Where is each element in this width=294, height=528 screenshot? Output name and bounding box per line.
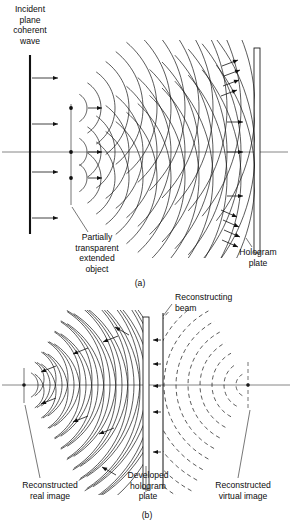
reconstructed-virtual-image-label-line: virtual image [219, 491, 268, 501]
developed-hologram-plate [143, 317, 149, 489]
incident-wave-label-line: Incident [15, 4, 46, 14]
wavefront-arc-src0-4 [116, 52, 143, 165]
reconstructed-real-image-label-line: real image [30, 491, 70, 501]
virtual-image-label-leader [238, 410, 250, 478]
object-label-leader [72, 207, 88, 232]
wavefront-arc-src2-9 [175, 81, 213, 275]
holography-figure: IncidentplanecoherentwavePartiallytransp… [0, 0, 294, 528]
wavefront-arc-src0-0 [79, 94, 87, 121]
object-point-source-2 [69, 176, 73, 180]
wavefront-arc-src2-5 [126, 112, 157, 243]
reconstructing-beam-label: Reconstructingbeam [175, 292, 233, 313]
object-point-source-0 [69, 106, 73, 110]
arrowhead [234, 80, 239, 84]
arrowhead [53, 216, 58, 220]
arrowhead [153, 384, 158, 388]
incident-wave-label-line: wave [19, 36, 40, 46]
arrowhead [153, 410, 158, 414]
real-image-label-leader [25, 405, 40, 478]
incident-wave-label: Incidentplanecoherentwave [13, 4, 47, 46]
arrowhead [53, 170, 58, 174]
figure-canvas: IncidentplanecoherentwavePartiallytransp… [0, 0, 294, 528]
reconstructing-beam-label-line: beam [175, 303, 197, 313]
hologram-plate-label-line: Hologram [239, 247, 276, 257]
wavefront-arc-src0-7 [150, 25, 185, 190]
object-label-line: object [86, 264, 110, 274]
arrowhead [53, 122, 58, 126]
arrowhead [153, 338, 158, 342]
object-label-line: transparent [75, 243, 119, 253]
wavefront-arc-src2-4 [116, 122, 143, 235]
reconstructed-virtual-image-label-line: Reconstructed [215, 480, 271, 490]
incident-wave-label-line: plane [19, 15, 40, 25]
reconstructed-virtual-image-label: Reconstructedvirtual image [215, 480, 271, 501]
reconstructing-beam-label-leader [163, 304, 172, 316]
object-point-source-1 [69, 150, 73, 154]
hologram-plate-label-leader [246, 238, 252, 247]
reconstructing-beam-label-line: Reconstructing [175, 292, 233, 302]
arrowhead [53, 76, 58, 80]
object-label-line: Partially [82, 232, 113, 242]
arrowhead [238, 150, 243, 154]
reconstructed-real-image-label: Reconstructedreal image [22, 480, 78, 501]
wavefront-arc-src0-8 [162, 18, 199, 198]
arrowhead [103, 338, 108, 342]
developed-hologram-plate-label-line: Developed [127, 470, 168, 480]
converging-wavefront-alt0-10 [100, 261, 164, 497]
panel-a-id: (a) [135, 278, 146, 288]
arrowhead [102, 467, 107, 471]
wavefront-arc-src2-3 [106, 132, 129, 225]
hologram-plate-label: Hologramplate [239, 247, 276, 268]
wavefront-arc-src2-11 [202, 70, 241, 286]
arrowhead [153, 362, 158, 366]
developed-hologram-plate-label: Developedhologramplate [127, 470, 168, 501]
wavefront-arc-src0-10 [188, 5, 227, 211]
developed-hologram-plate-label-line: hologram [130, 481, 166, 491]
arrowhead [153, 450, 158, 454]
panel-b-id: (b) [142, 510, 153, 520]
object-label: Partiallytransparentextendedobject [75, 232, 119, 274]
reconstructed-real-image-label-line: Reconstructed [22, 480, 78, 490]
object-label-line: extended [79, 253, 115, 263]
wavefront-arc-src0-9 [175, 11, 213, 205]
hologram-plate-label-line: plate [249, 258, 268, 268]
wavefront-arc-src0-5 [126, 42, 157, 173]
developed-hologram-plate-label-line: plate [139, 491, 158, 501]
incident-wave-label-line: coherent [13, 25, 47, 35]
wavefront-arc-src2-10 [188, 75, 227, 281]
wavefront-arc-src2-0 [79, 164, 87, 191]
